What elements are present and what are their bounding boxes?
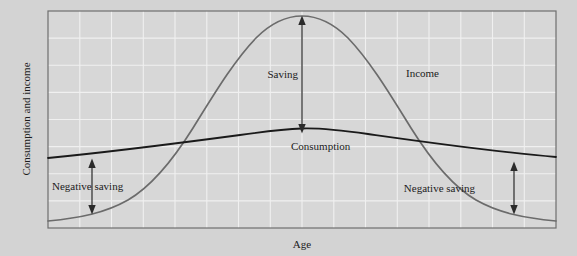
negative-saving-left-label: Negative saving — [52, 180, 124, 192]
life-cycle-chart-figure: Saving Income Consumption Negative savin… — [0, 0, 577, 256]
chart-canvas: Saving Income Consumption Negative savin… — [0, 0, 577, 256]
consumption-label: Consumption — [291, 140, 351, 152]
negative-saving-right-label: Negative saving — [404, 182, 476, 194]
y-axis-title: Consumption and income — [20, 62, 32, 175]
saving-label: Saving — [267, 68, 298, 80]
income-label: Income — [406, 67, 439, 79]
x-axis-title: Age — [293, 238, 311, 250]
